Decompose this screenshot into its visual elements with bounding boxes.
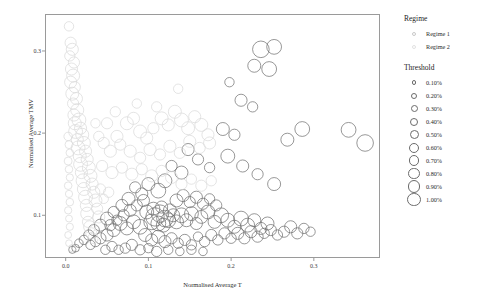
legend-label-regime: Regime 2 bbox=[426, 43, 450, 50]
legend-label-threshold: 0.60% bbox=[426, 144, 442, 151]
legend-label-threshold: 0.70% bbox=[426, 157, 442, 164]
legend-label-threshold: 1.00% bbox=[426, 196, 442, 203]
legend-regime-title: Regime bbox=[404, 14, 479, 23]
regime-key-circle-icon bbox=[404, 32, 424, 36]
x-axis-title: Normalised Average T bbox=[0, 281, 425, 288]
scatter-plot-figure: 0.00.10.20.30.10.20.3 Normalised Average… bbox=[0, 0, 479, 298]
legend-label-threshold: 0.40% bbox=[426, 118, 442, 125]
threshold-key-circle-icon bbox=[404, 93, 424, 99]
legend-item-threshold[interactable]: 0.10% bbox=[404, 76, 479, 89]
legend-item-threshold[interactable]: 0.50% bbox=[404, 128, 479, 141]
legend-threshold-title: Threshold bbox=[404, 63, 479, 72]
x-tick-label: 0.0 bbox=[62, 263, 70, 269]
legend-item-threshold[interactable]: 0.90% bbox=[404, 180, 479, 193]
x-tick-label: 0.3 bbox=[310, 263, 318, 269]
legend-regime-block: Regime Regime 1Regime 2 bbox=[404, 14, 479, 53]
legend-label-threshold: 0.30% bbox=[426, 105, 442, 112]
y-axis-title: Normalised Average TMV bbox=[27, 44, 34, 224]
legend-label-threshold: 0.80% bbox=[426, 170, 442, 177]
legend-item-regime[interactable]: Regime 1 bbox=[404, 27, 479, 40]
legend-label-threshold: 0.10% bbox=[426, 79, 442, 86]
legend-label-threshold: 0.20% bbox=[426, 92, 442, 99]
legend-item-threshold[interactable]: 0.80% bbox=[404, 167, 479, 180]
legend-item-threshold[interactable]: 0.40% bbox=[404, 115, 479, 128]
legend-item-regime[interactable]: Regime 2 bbox=[404, 40, 479, 53]
threshold-key-circle-icon bbox=[404, 168, 424, 180]
plot-panel bbox=[45, 14, 380, 258]
threshold-key-circle-icon bbox=[404, 143, 424, 153]
threshold-key-circle-icon bbox=[404, 105, 424, 112]
threshold-key-circle-icon bbox=[404, 193, 424, 206]
legend-label-threshold: 0.90% bbox=[426, 183, 442, 190]
legend-item-threshold[interactable]: 0.60% bbox=[404, 141, 479, 154]
legend-item-threshold[interactable]: 0.70% bbox=[404, 154, 479, 167]
legend-label-regime: Regime 1 bbox=[426, 30, 450, 37]
regime-key-circle-icon bbox=[404, 45, 424, 49]
legend-item-threshold[interactable]: 0.20% bbox=[404, 89, 479, 102]
legend-label-threshold: 0.50% bbox=[426, 131, 442, 138]
threshold-key-circle-icon bbox=[404, 180, 424, 192]
x-tick-label: 0.1 bbox=[145, 263, 153, 269]
threshold-key-circle-icon bbox=[404, 80, 424, 85]
x-tick-label: 0.2 bbox=[227, 263, 235, 269]
threshold-key-circle-icon bbox=[404, 118, 424, 126]
threshold-key-circle-icon bbox=[404, 155, 424, 166]
legend-item-threshold[interactable]: 0.30% bbox=[404, 102, 479, 115]
legend-threshold-block: Threshold 0.10%0.20%0.30%0.40%0.50%0.60%… bbox=[404, 63, 479, 206]
legend-item-threshold[interactable]: 1.00% bbox=[404, 193, 479, 206]
threshold-key-circle-icon bbox=[404, 130, 424, 139]
legend: Regime Regime 1Regime 2 Threshold 0.10%0… bbox=[404, 14, 479, 216]
